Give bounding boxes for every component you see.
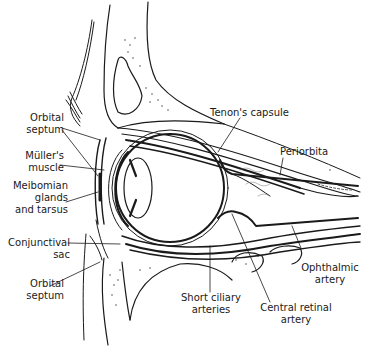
label-line: Orbital (12, 112, 64, 124)
label-periorbita: Periorbita (280, 146, 328, 158)
label-line: artery (298, 274, 362, 286)
label-line: glands (4, 192, 68, 204)
label-line: septum (12, 290, 64, 302)
label-line: arteries (176, 304, 246, 316)
label-line: artery (254, 314, 338, 326)
frontal-bone (104, 2, 224, 128)
upper-eyelid-skin (66, 20, 94, 126)
label-line: and tarsus (4, 204, 68, 216)
label-line: Conjunctival (0, 237, 70, 249)
label-line: Orbital (12, 278, 64, 290)
lens (124, 158, 152, 218)
leader-lines (50, 118, 301, 302)
label-orbital-septum-upper: Orbital septum (12, 112, 64, 136)
label-line: Tenon's capsule (210, 107, 289, 118)
label-line: Periorbita (280, 146, 328, 157)
label-line: Müller's (12, 150, 64, 162)
label-conjunctival-sac: Conjunctival sac (0, 237, 70, 261)
label-line: sac (0, 249, 70, 261)
eyeball (116, 134, 224, 242)
label-line: Short ciliary (176, 292, 246, 304)
iris (130, 160, 136, 216)
label-ophthalmic-artery: Ophthalmic artery (298, 262, 362, 286)
label-central-retinal-artery: Central retinal artery (254, 302, 338, 326)
label-meibomian-glands: Meibomian glands and tarsus (4, 180, 68, 216)
label-line: muscle (12, 162, 64, 174)
label-mullers-muscle: Müller's muscle (12, 150, 64, 174)
label-orbital-septum-lower: Orbital septum (12, 278, 64, 302)
label-tenons-capsule: Tenon's capsule (210, 107, 289, 119)
label-line: Ophthalmic (298, 262, 362, 274)
label-short-ciliary-arteries: Short ciliary arteries (176, 292, 246, 316)
label-line: Meibomian (4, 180, 68, 192)
tarsus (95, 138, 106, 224)
label-line: septum (12, 124, 64, 136)
label-line: Central retinal (254, 302, 338, 314)
eye-orbit-diagram: Orbital septum Müller's muscle Meibomian… (0, 0, 378, 352)
